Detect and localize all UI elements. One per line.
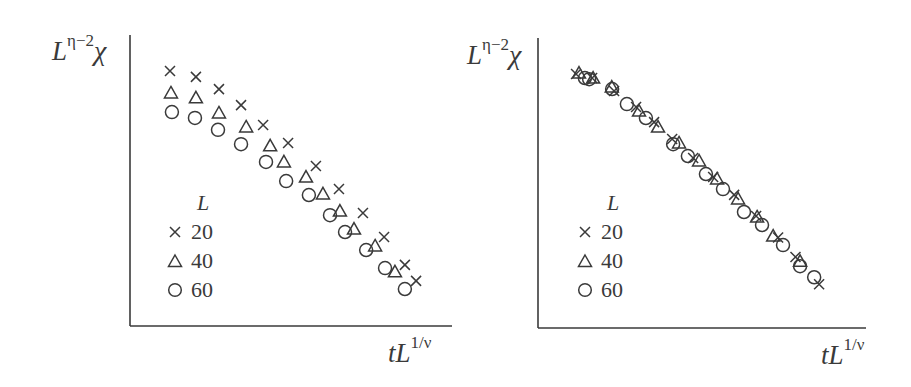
x-icon: [167, 224, 183, 240]
triangle-marker: [767, 230, 780, 242]
y-axis-label-left: Lη−2χ: [52, 36, 106, 65]
circle-marker: [808, 271, 821, 284]
legend-item-40: 40: [167, 246, 213, 275]
circle-marker: [165, 106, 178, 119]
x-marker: [214, 84, 224, 94]
x-marker: [334, 184, 344, 194]
triangle-marker: [164, 86, 177, 98]
circle-marker: [212, 123, 225, 136]
triangle-marker: [212, 106, 225, 118]
triangle-marker: [348, 223, 361, 235]
circle-marker: [777, 239, 790, 252]
legend-title: L: [167, 188, 213, 217]
triangle-marker: [316, 187, 329, 199]
x-axis-label-right: tL1/ν: [821, 340, 864, 369]
triangle-marker: [277, 155, 290, 167]
y-axis-label-right: Lη−2χ: [467, 40, 521, 69]
circle-icon: [167, 282, 183, 298]
legend-item-60: 60: [167, 275, 213, 304]
triangle-marker: [189, 91, 202, 103]
circle-marker: [681, 150, 694, 163]
circle-marker: [398, 283, 411, 296]
x-marker: [258, 120, 268, 130]
chart-right-scaled: Lη−2χ tL1/ν L 20 40 60: [455, 0, 911, 387]
triangle-icon: [167, 253, 183, 269]
circle-marker: [188, 111, 201, 124]
circle-marker: [737, 206, 750, 219]
circle-marker: [339, 226, 352, 239]
plot-area-right: [455, 0, 911, 387]
circle-marker: [302, 189, 315, 202]
circle-marker: [620, 98, 633, 111]
legend-item-60: 60: [577, 275, 623, 304]
legend-item-40: 40: [577, 246, 623, 275]
x-marker: [191, 72, 201, 82]
circle-marker: [235, 138, 248, 151]
legend-right: L 20 40 60: [577, 188, 623, 304]
x-marker: [311, 161, 321, 171]
legend-left: L 20 40 60: [167, 188, 213, 304]
circle-marker: [280, 175, 293, 188]
legend-item-20: 20: [167, 217, 213, 246]
triangle-marker: [300, 171, 313, 183]
x-marker: [283, 138, 293, 148]
x-marker: [165, 66, 175, 76]
triangle-marker: [264, 139, 277, 151]
circle-marker: [379, 262, 392, 275]
triangle-marker: [240, 120, 253, 131]
chart-left-unscaled: Lη−2χ tL1/ν L 20 40 60: [0, 0, 455, 387]
legend-title: L: [577, 188, 623, 217]
x-marker: [411, 276, 421, 286]
circle-marker: [260, 155, 273, 168]
circle-marker: [360, 244, 373, 257]
x-axis-label-left: tL1/ν: [388, 338, 431, 367]
x-marker: [358, 208, 368, 218]
legend-item-20: 20: [577, 217, 623, 246]
triangle-icon: [577, 253, 593, 269]
x-marker: [379, 232, 389, 242]
x-marker: [400, 260, 410, 270]
circle-icon: [577, 282, 593, 298]
x-marker: [236, 100, 246, 110]
x-icon: [577, 224, 593, 240]
